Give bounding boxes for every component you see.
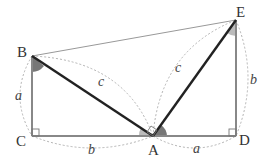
label-C: C	[16, 133, 26, 149]
side-label-AB: c	[98, 74, 105, 89]
segment-AB	[32, 56, 153, 136]
arc-b-right	[236, 20, 248, 136]
segment-BE	[32, 20, 236, 56]
label-E: E	[236, 4, 245, 20]
dashed-arcs	[20, 20, 248, 148]
side-label-BC: a	[15, 88, 22, 103]
side-label-CA: b	[88, 142, 95, 157]
segment-AE	[153, 20, 236, 136]
right-angle-C	[32, 129, 39, 136]
side-label-AD: a	[193, 141, 200, 156]
right-angle-D	[229, 129, 236, 136]
label-A: A	[148, 142, 159, 158]
side-label-DE: b	[250, 72, 257, 87]
trapezoid-diagram: B C A D E a b c c a b	[0, 0, 271, 164]
side-label-AE: c	[175, 60, 182, 75]
label-D: D	[239, 132, 250, 148]
label-B: B	[17, 44, 27, 60]
